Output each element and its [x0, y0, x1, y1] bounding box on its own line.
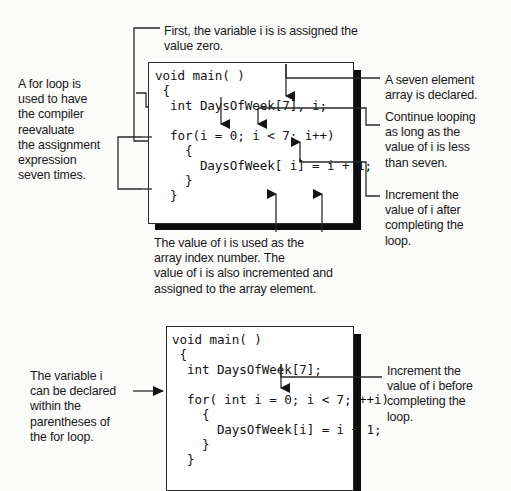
figure-canvas: First, the variable i is is assigned the…: [0, 0, 511, 491]
code-listing-1: void main( ) { int DaysOfWeek[7], i; for…: [155, 68, 372, 203]
annotation-continue-looping: Continue looping as long as the value of…: [385, 110, 509, 171]
annotation-declare-in-parens: The variable i can be declared within th…: [30, 369, 150, 445]
annotation-for-loop-purpose: A for loop is used to have the compiler …: [18, 77, 136, 183]
annotation-index-usage: The value of i is used as the array inde…: [154, 236, 396, 297]
annotation-array-declared: A seven element array is declared.: [385, 73, 509, 103]
annotation-increment-before: Increment the value of i before completi…: [387, 364, 509, 425]
code-listing-2: void main( ) { int DaysOfWeek[7]; for( i…: [172, 332, 389, 467]
annotation-first-assign: First, the variable i is is assigned the…: [164, 24, 394, 54]
annotation-increment-after: Increment the value of i after completin…: [385, 188, 509, 249]
connector-for-loop-top: [136, 93, 148, 107]
